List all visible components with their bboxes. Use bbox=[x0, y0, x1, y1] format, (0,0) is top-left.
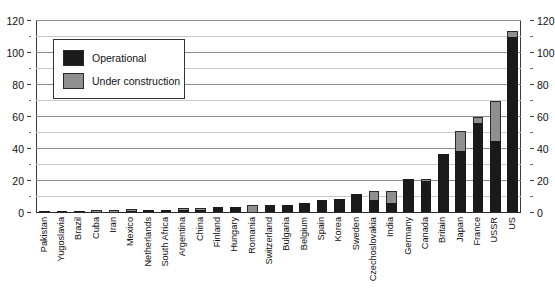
bar-segment-operational bbox=[455, 151, 466, 213]
legend-label-under-construction: Under construction bbox=[92, 75, 180, 87]
bar-group bbox=[348, 21, 365, 213]
x-axis-category-labels: PakistanYugoslaviaBrazilCubaIranMexicoNe… bbox=[36, 215, 521, 293]
x-axis-label-cell: Bulgaria bbox=[279, 215, 296, 293]
x-axis-label-cell: Iran bbox=[105, 215, 122, 293]
x-axis-label: Hungary bbox=[231, 217, 240, 252]
x-axis-label: France bbox=[473, 217, 482, 246]
bar-group bbox=[244, 21, 261, 213]
x-axis-label: Cuba bbox=[92, 217, 101, 239]
y-axis-right-label: 0 bbox=[537, 207, 543, 219]
bar-segment-operational bbox=[473, 123, 484, 213]
x-axis-label-cell: Switzerland bbox=[261, 215, 278, 293]
x-axis-label-cell: Yugoslavia bbox=[53, 215, 70, 293]
x-axis-label: USSR bbox=[491, 217, 500, 243]
bar-group bbox=[313, 21, 330, 213]
x-axis-label-cell: Sweden bbox=[348, 215, 365, 293]
x-axis-label-cell: France bbox=[469, 215, 486, 293]
x-axis-label-cell: US bbox=[504, 215, 521, 293]
x-axis-label: Korea bbox=[335, 217, 344, 242]
x-axis-label: Czechoslovakia bbox=[369, 217, 378, 281]
x-axis-label: Romania bbox=[248, 217, 257, 254]
x-axis-label-cell: Mexico bbox=[123, 215, 140, 293]
x-axis-label-cell: Spain bbox=[313, 215, 330, 293]
y-axis-left-label: 80 bbox=[12, 79, 24, 91]
y-axis-right-label: 20 bbox=[537, 175, 549, 187]
bar-segment-under-construction bbox=[386, 191, 397, 204]
x-axis-label: China bbox=[196, 217, 205, 241]
x-axis-label-cell: South Africa bbox=[157, 215, 174, 293]
x-axis-label-cell: Germany bbox=[400, 215, 417, 293]
x-axis-label: Japan bbox=[456, 217, 465, 242]
stacked-bar bbox=[403, 179, 414, 213]
y-tick-right-minor bbox=[530, 164, 533, 165]
x-axis-label: Bulgaria bbox=[283, 217, 292, 251]
stacked-bar bbox=[386, 191, 397, 213]
bar-group bbox=[279, 21, 296, 213]
y-tick-right bbox=[530, 148, 534, 149]
legend-item-operational: Operational bbox=[63, 50, 175, 66]
y-tick-right-minor bbox=[530, 100, 533, 101]
stacked-bar bbox=[455, 131, 466, 213]
y-tick-right bbox=[530, 116, 534, 117]
y-tick-right bbox=[530, 212, 534, 213]
y-axis-left-label: 120 bbox=[6, 15, 24, 27]
bar-group bbox=[331, 21, 348, 213]
x-axis-label: Spain bbox=[317, 217, 326, 241]
x-axis-label: Argentina bbox=[179, 217, 188, 256]
nuclear-reactors-bar-chart: 020406080100120 020406080100120 Pakistan… bbox=[0, 0, 555, 295]
y-tick-left bbox=[27, 52, 31, 53]
x-axis-label-cell: India bbox=[383, 215, 400, 293]
y-tick-right-minor bbox=[530, 68, 533, 69]
x-axis-label: Canada bbox=[421, 217, 430, 249]
x-axis-label: Mexico bbox=[127, 217, 136, 246]
bar-group bbox=[365, 21, 382, 213]
y-axis-right: 020406080100120 bbox=[530, 21, 555, 213]
x-axis-label-cell: Canada bbox=[417, 215, 434, 293]
y-tick-left bbox=[27, 84, 31, 85]
chart-legend: Operational Under construction bbox=[53, 39, 185, 99]
y-axis-right-label: 80 bbox=[537, 79, 549, 91]
y-tick-right-minor bbox=[530, 132, 533, 133]
y-tick-right-minor bbox=[530, 196, 533, 197]
x-axis-label: Switzerland bbox=[265, 217, 274, 265]
y-tick-left bbox=[27, 148, 31, 149]
y-tick-left-minor bbox=[29, 36, 32, 37]
legend-item-under-construction: Under construction bbox=[63, 73, 175, 89]
y-tick-right-minor bbox=[530, 36, 533, 37]
bar-group bbox=[400, 21, 417, 213]
x-axis-label-cell: Netherlands bbox=[140, 215, 157, 293]
x-axis-label: India bbox=[387, 217, 396, 237]
bar-segment-operational bbox=[490, 141, 501, 213]
x-axis-label-cell: Belgium bbox=[296, 215, 313, 293]
x-axis-label-cell: Cuba bbox=[88, 215, 105, 293]
x-axis-label: Pakistan bbox=[40, 217, 49, 252]
y-axis-right-label: 120 bbox=[537, 15, 555, 27]
bar-group bbox=[487, 21, 504, 213]
x-axis-label-cell: Argentina bbox=[175, 215, 192, 293]
x-axis-label: Netherlands bbox=[144, 217, 153, 267]
bar-group bbox=[36, 21, 53, 213]
bar-segment-operational bbox=[507, 37, 518, 213]
under-construction-swatch bbox=[63, 73, 84, 89]
stacked-bar bbox=[490, 101, 501, 213]
stacked-bar bbox=[351, 194, 362, 213]
x-axis-label-cell: Korea bbox=[331, 215, 348, 293]
y-tick-left bbox=[27, 20, 31, 21]
x-axis-label-cell: Pakistan bbox=[36, 215, 53, 293]
stacked-bar bbox=[473, 117, 484, 213]
y-tick-left-minor bbox=[29, 132, 32, 133]
operational-swatch bbox=[63, 50, 84, 66]
bar-group bbox=[209, 21, 226, 213]
y-axis-right-label: 60 bbox=[537, 111, 549, 123]
y-tick-right bbox=[530, 180, 534, 181]
x-axis-label-cell: Japan bbox=[452, 215, 469, 293]
y-axis-left-label: 40 bbox=[12, 143, 24, 155]
x-axis-label-cell: Romania bbox=[244, 215, 261, 293]
x-axis-label-cell: USSR bbox=[487, 215, 504, 293]
x-axis-label: South Africa bbox=[161, 217, 170, 267]
bar-segment-under-construction bbox=[455, 131, 466, 150]
legend-label-operational: Operational bbox=[92, 52, 146, 64]
x-axis-label: US bbox=[508, 217, 517, 230]
bar-segment-under-construction bbox=[369, 191, 380, 201]
stacked-bar bbox=[369, 191, 380, 213]
